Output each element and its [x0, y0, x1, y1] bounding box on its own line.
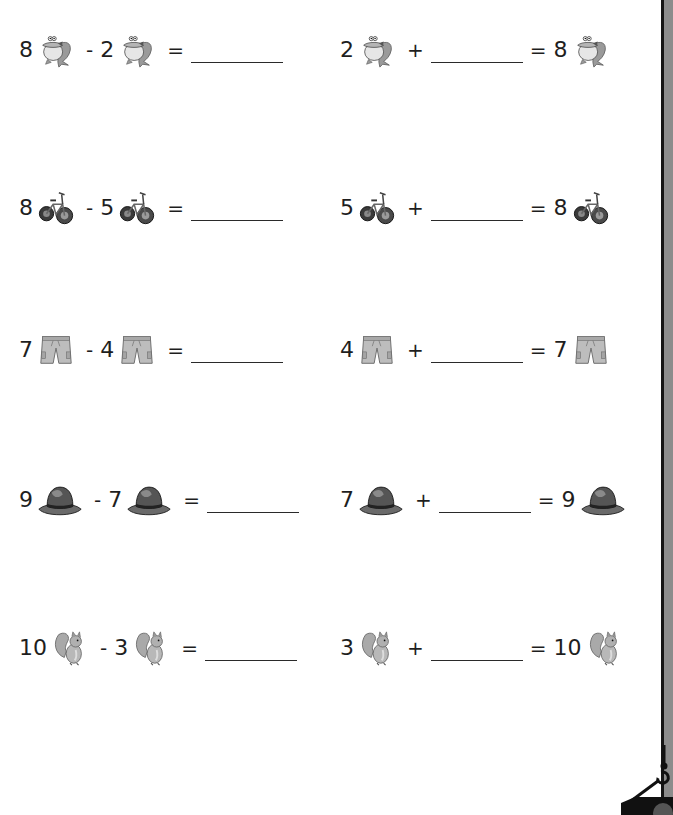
bicycle-icon — [118, 189, 156, 227]
plus-sign: + — [407, 40, 424, 60]
equals-sign: = — [181, 638, 198, 658]
bicycle-icon — [37, 189, 75, 227]
equals-sign: = — [167, 198, 184, 218]
equals-sign: = — [530, 638, 547, 658]
equation-row-frog: 8 - 2 = 2 + = 8 — [0, 20, 640, 80]
hat-icon — [37, 481, 83, 519]
addend: 4 — [340, 339, 354, 361]
frog-icon — [37, 31, 75, 69]
bicycle-icon — [358, 189, 396, 227]
subtraction-equation: 8 - 5 = — [19, 178, 283, 238]
answer-blank[interactable] — [431, 352, 523, 363]
addition-equation: 7 + = 9 — [340, 470, 630, 530]
hat-icon — [580, 481, 626, 519]
answer-blank[interactable] — [431, 210, 523, 221]
addition-equation: 3 + = 10 — [340, 618, 628, 678]
shorts-icon — [572, 331, 610, 369]
subtrahend: 5 — [100, 197, 114, 219]
plus-sign: + — [407, 198, 424, 218]
subtraction-equation: 10 - 3 = — [19, 618, 297, 678]
answer-blank[interactable] — [191, 52, 283, 63]
answer-blank[interactable] — [439, 502, 531, 513]
answer-blank[interactable] — [207, 502, 299, 513]
shorts-icon — [37, 331, 75, 369]
minus-sign: - — [86, 198, 93, 218]
minuend: 8 — [19, 39, 33, 61]
bicycle-icon — [572, 189, 610, 227]
page-edge-bar — [661, 0, 673, 815]
equation-row-hat: 9 - 7 = 7 + = 9 — [0, 470, 640, 530]
hat-icon — [358, 481, 404, 519]
sum: 7 — [554, 339, 568, 361]
worksheet-page: 8 - 2 = 2 + = 8 8 - 5 = 5 — [0, 0, 673, 815]
addend: 3 — [340, 637, 354, 659]
equals-sign: = — [530, 198, 547, 218]
addition-equation: 5 + = 8 — [340, 178, 614, 238]
sum: 10 — [554, 637, 582, 659]
plus-sign: + — [407, 638, 424, 658]
subtrahend: 3 — [114, 637, 128, 659]
answer-blank[interactable] — [431, 52, 523, 63]
equals-sign: = — [538, 490, 555, 510]
subtrahend: 7 — [108, 489, 122, 511]
crane-hook-icon — [617, 745, 673, 815]
squirrel-icon — [51, 629, 89, 667]
addition-equation: 4 + = 7 — [340, 320, 614, 380]
addition-equation: 2 + = 8 — [340, 20, 614, 80]
answer-blank[interactable] — [191, 210, 283, 221]
sum: 9 — [562, 489, 576, 511]
subtraction-equation: 9 - 7 = — [19, 470, 299, 530]
equation-row-bicycle: 8 - 5 = 5 + = 8 — [0, 178, 640, 238]
hat-icon — [126, 481, 172, 519]
shorts-icon — [118, 331, 156, 369]
equation-row-shorts: 7 - 4 = 4 + = 7 — [0, 320, 640, 380]
squirrel-icon — [132, 629, 170, 667]
subtraction-equation: 8 - 2 = — [19, 20, 283, 80]
equals-sign: = — [530, 40, 547, 60]
minus-sign: - — [86, 40, 93, 60]
equals-sign: = — [167, 340, 184, 360]
addend: 2 — [340, 39, 354, 61]
shorts-icon — [358, 331, 396, 369]
minuend: 7 — [19, 339, 33, 361]
minuend: 9 — [19, 489, 33, 511]
equals-sign: = — [183, 490, 200, 510]
squirrel-icon — [358, 629, 396, 667]
addend: 5 — [340, 197, 354, 219]
minus-sign: - — [100, 638, 107, 658]
plus-sign: + — [407, 340, 424, 360]
addend: 7 — [340, 489, 354, 511]
squirrel-icon — [586, 629, 624, 667]
answer-blank[interactable] — [431, 650, 523, 661]
answer-blank[interactable] — [205, 650, 297, 661]
minus-sign: - — [94, 490, 101, 510]
subtraction-equation: 7 - 4 = — [19, 320, 283, 380]
frog-icon — [358, 31, 396, 69]
subtrahend: 2 — [100, 39, 114, 61]
plus-sign: + — [415, 490, 432, 510]
frog-icon — [118, 31, 156, 69]
answer-blank[interactable] — [191, 352, 283, 363]
equals-sign: = — [167, 40, 184, 60]
sum: 8 — [554, 39, 568, 61]
equation-row-squirrel: 10 - 3 = 3 + = 10 — [0, 618, 640, 678]
frog-icon — [572, 31, 610, 69]
minuend: 8 — [19, 197, 33, 219]
subtrahend: 4 — [100, 339, 114, 361]
equals-sign: = — [530, 340, 547, 360]
minuend: 10 — [19, 637, 47, 659]
sum: 8 — [554, 197, 568, 219]
minus-sign: - — [86, 340, 93, 360]
